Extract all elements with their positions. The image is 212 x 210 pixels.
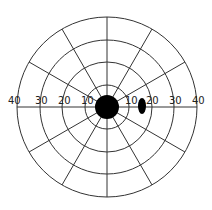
label-left-20: 20 (58, 95, 71, 106)
label-right-20: 20 (146, 95, 159, 106)
label-left-30: 30 (35, 95, 48, 106)
label-right-40: 40 (192, 95, 205, 106)
central-scotoma (95, 95, 119, 119)
visual-field-chart: 40 30 20 10 10 20 30 40 (0, 0, 212, 210)
label-left-40: 40 (8, 95, 21, 106)
blind-spot (138, 98, 146, 114)
label-right-30: 30 (169, 95, 182, 106)
label-right-10: 10 (125, 95, 138, 106)
label-left-10: 10 (81, 95, 94, 106)
